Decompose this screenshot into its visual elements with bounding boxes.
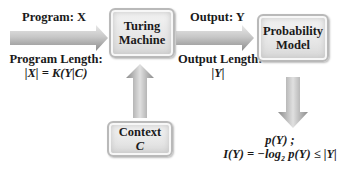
output-label: Output: Y bbox=[190, 10, 245, 24]
turing-machine-node: Turing Machine bbox=[109, 8, 175, 58]
context-arrow bbox=[126, 64, 154, 118]
program-label: Program: X bbox=[22, 10, 86, 24]
probability-arrow bbox=[278, 77, 308, 128]
program-arrow bbox=[10, 25, 108, 51]
program-length-label: Program Length: |X| = K(Y|C) bbox=[6, 52, 106, 80]
context-node: Context C bbox=[107, 121, 173, 157]
information-formula: p(Y) ; I(Y) = −log₂ p(Y) ≤ |Y| bbox=[210, 133, 350, 161]
output-arrow bbox=[176, 25, 254, 51]
probability-model-node: Probability Model bbox=[257, 14, 329, 62]
output-length-label: Output Length: |Y| bbox=[178, 52, 258, 80]
